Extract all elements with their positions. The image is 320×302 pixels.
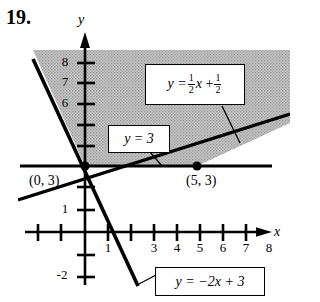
x-tick-label-5: 5	[193, 240, 207, 256]
y-axis-label: y	[78, 12, 84, 28]
fraction-denominator: 2	[214, 84, 221, 95]
x-tick-label-4: 4	[170, 240, 184, 256]
fraction-one-half-constant: 12	[214, 73, 221, 94]
equation-variable: x	[196, 76, 202, 91]
point-label-0-3: (0, 3)	[29, 173, 59, 189]
point-marker-0-3	[80, 161, 89, 170]
equation-lhs: y =	[168, 76, 187, 91]
y-tick-label-8: 8	[58, 54, 72, 70]
point-marker-5-3	[192, 161, 201, 170]
x-tick-label-7: 7	[239, 240, 253, 256]
y-tick-label-7: 7	[58, 74, 72, 90]
equation-box-y-equals-3: y = 3	[108, 125, 170, 153]
x-tick-label-1: 1	[101, 240, 115, 256]
point-label-5-3: (5, 3)	[186, 173, 216, 189]
y-tick-label-6: 6	[58, 95, 72, 111]
equation-box-half-x-plus-half: y =12x +12	[145, 64, 245, 105]
y-tick-label-neg2: -2	[50, 267, 74, 283]
equation-box-minus-2x-plus-3: y = −2x + 3	[155, 267, 265, 296]
y-tick-label-1: 1	[58, 201, 72, 217]
fraction-one-half-coefficient: 12	[188, 73, 195, 94]
fraction-denominator: 2	[188, 84, 195, 95]
x-tick-label-8: 8	[262, 240, 276, 256]
fraction-numerator: 1	[188, 73, 195, 83]
equation-text-neg2x: y = −2x + 3	[176, 274, 245, 290]
x-axis-label: x	[274, 224, 280, 240]
equation-plus-sign: +	[205, 76, 213, 91]
equation-text-y3: y = 3	[124, 131, 154, 147]
fraction-numerator: 1	[214, 73, 221, 83]
leader-line-neg2x	[137, 275, 156, 285]
x-tick-label-3: 3	[147, 240, 161, 256]
x-tick-label-6: 6	[216, 240, 230, 256]
